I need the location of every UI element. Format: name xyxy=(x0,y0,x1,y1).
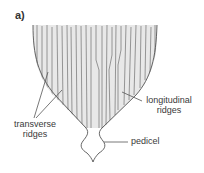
organ-diagram xyxy=(0,0,204,173)
diagram-figure: a) xyxy=(0,0,204,173)
leader-transverse-2 xyxy=(36,90,62,118)
label-longitudinal-ridges: longitudinal ridges xyxy=(140,96,198,115)
label-pedicel: pedicel xyxy=(131,137,160,146)
label-transverse-ridges: transverse ridges xyxy=(10,120,60,139)
leader-transverse-1 xyxy=(34,72,48,118)
